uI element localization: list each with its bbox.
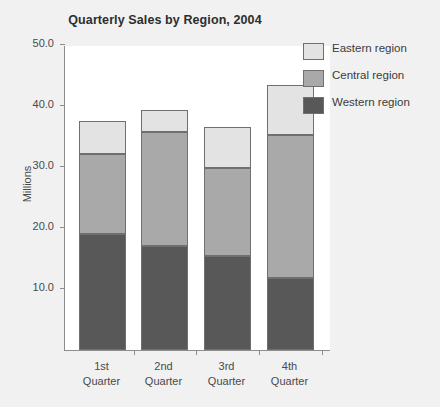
bar-segment[interactable] (141, 246, 188, 350)
y-tick-label: 30.0 (8, 159, 54, 171)
bar-segment[interactable] (267, 135, 314, 278)
bar-segment[interactable] (141, 110, 188, 132)
x-axis-category-label: 3rdQuarter (192, 359, 262, 389)
y-tick-mark (60, 166, 65, 167)
bar-stack[interactable] (141, 110, 188, 350)
bar-segment[interactable] (204, 256, 251, 350)
y-tick-mark (60, 44, 65, 45)
plot-area: 10.020.030.040.050.0 (64, 46, 330, 351)
bar-segment[interactable] (79, 234, 126, 350)
legend-color-swatch (303, 97, 324, 114)
y-tick-label: 10.0 (8, 281, 54, 293)
bar-segment[interactable] (141, 132, 188, 246)
y-axis-title: Millions (21, 144, 33, 224)
y-tick-label: 40.0 (8, 98, 54, 110)
y-tick-label: 50.0 (8, 37, 54, 49)
chart-title: Quarterly Sales by Region, 2004 (0, 13, 330, 27)
legend-color-swatch (303, 70, 324, 87)
bar-stack[interactable] (267, 85, 314, 350)
x-tick-mark (259, 350, 260, 355)
x-tick-mark (322, 350, 323, 355)
stacked-bar-chart: Quarterly Sales by Region, 2004 Millions… (0, 0, 440, 407)
bar-segment[interactable] (79, 154, 126, 235)
y-tick-mark (60, 227, 65, 228)
x-axis-category-label: 1stQuarter (67, 359, 137, 389)
x-axis-category-label: 4thQuarter (255, 359, 325, 389)
legend-item-label: Central region (332, 69, 404, 81)
bar-segment[interactable] (267, 278, 314, 350)
legend-color-swatch (303, 43, 324, 60)
x-axis-category-label: 2ndQuarter (129, 359, 199, 389)
bar-segment[interactable] (204, 168, 251, 256)
bar-segment[interactable] (79, 121, 126, 153)
bar-stack[interactable] (204, 127, 251, 350)
y-tick-label: 20.0 (8, 220, 54, 232)
legend-item-label: Eastern region (332, 42, 407, 54)
bar-stack[interactable] (79, 121, 126, 350)
bar-segment[interactable] (204, 127, 251, 168)
y-tick-mark (60, 288, 65, 289)
legend-item-label: Western region (332, 96, 410, 108)
y-tick-mark (60, 105, 65, 106)
x-tick-mark (196, 350, 197, 355)
x-tick-mark (134, 350, 135, 355)
